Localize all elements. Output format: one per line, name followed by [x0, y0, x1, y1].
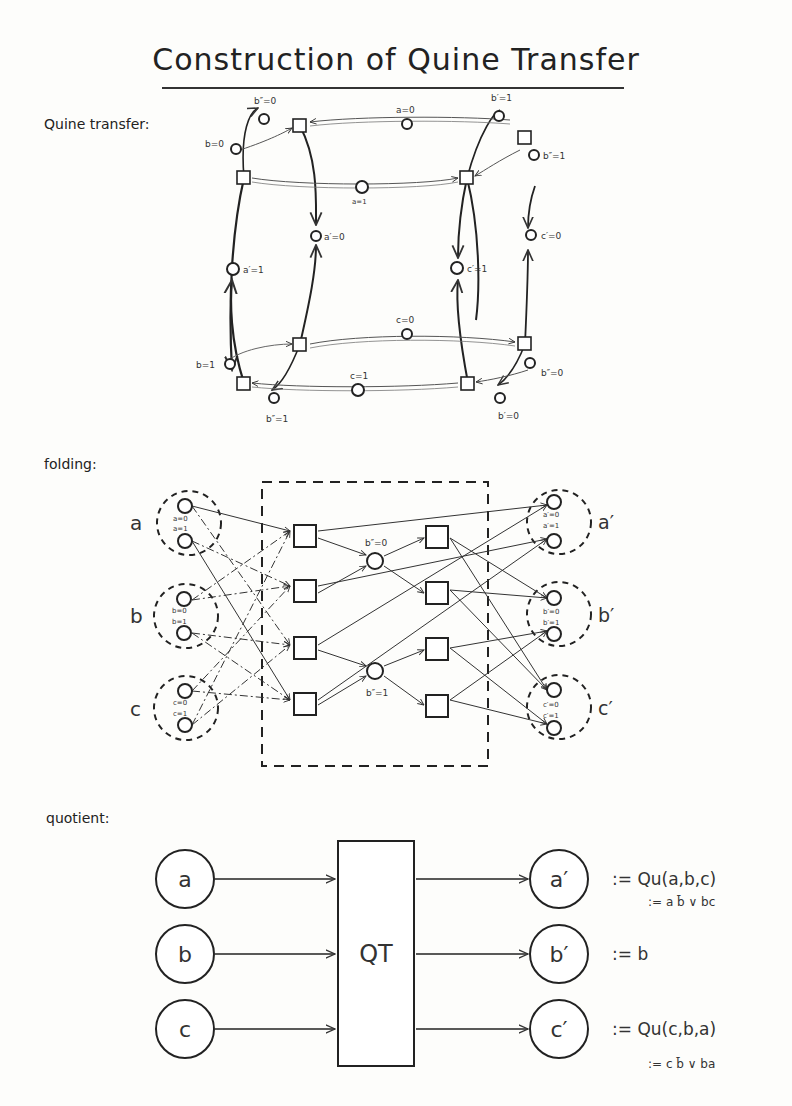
equation-a-prime: := Qu(a,b,c) — [612, 869, 716, 889]
place-b-pp-1 — [367, 663, 383, 679]
output-label-b-prime: b′ — [550, 942, 569, 967]
label: a′=1 — [243, 265, 264, 275]
equation-c-prime: := Qu(c,b,a) — [612, 1019, 716, 1039]
label: a=1 — [173, 525, 188, 533]
label: a=0 — [173, 515, 188, 523]
place-b-1 — [177, 626, 191, 640]
input-label-b: b — [178, 942, 192, 967]
group-label-a: a — [130, 511, 142, 535]
quine-transfer-net — [226, 108, 535, 391]
place-a-0 — [402, 119, 412, 129]
transition — [461, 377, 474, 390]
transition — [518, 337, 531, 350]
place-b-1 — [225, 359, 235, 369]
place-c-p-1 — [451, 262, 463, 274]
label: b=0 — [205, 139, 224, 149]
transition — [294, 693, 316, 715]
quine-transfer-places — [225, 111, 539, 403]
equation-a-prime-expanded: := a b̄ ∨ bc — [648, 895, 715, 909]
place-b-pp-1-top — [529, 150, 539, 160]
place-a-p-0 — [311, 231, 321, 241]
label: a′=0 — [324, 232, 345, 242]
transition — [294, 637, 316, 659]
equation-c-prime-expanded: := c b̄ ∨ ba — [648, 1057, 715, 1071]
transition — [518, 131, 531, 144]
label: b′=1 — [543, 619, 559, 627]
label: c′=1 — [467, 264, 487, 274]
quine-transfer-labels: b″=0 b=0 a=0 b′=1 b″=1 a=1 a′=0 a′=1 c′=… — [196, 93, 565, 424]
place-c-0 — [402, 329, 412, 339]
label: b″=0 — [541, 368, 564, 378]
place-a-0 — [178, 499, 192, 513]
transition — [426, 582, 448, 604]
label: b=0 — [172, 607, 187, 615]
place-b-pp-0 — [367, 553, 383, 569]
group-label-a-prime: a′ — [598, 511, 614, 533]
transition — [293, 338, 306, 351]
folding-net: a b c a=0 a=1 b=0 b=1 c=0 c=1 b″=0 b″=1 … — [130, 482, 614, 766]
label: b″=1 — [266, 414, 288, 424]
place-b-p-0 — [495, 393, 505, 403]
label: c=0 — [396, 315, 414, 325]
input-label-c: c — [179, 1017, 191, 1042]
label: b=1 — [196, 360, 215, 370]
label: b′=0 — [498, 411, 519, 421]
group-label-b: b — [130, 604, 143, 628]
transition — [426, 526, 448, 548]
place-c-p-0 — [526, 230, 536, 240]
qt-label: QT — [359, 940, 393, 968]
output-label-c-prime: c′ — [550, 1017, 567, 1042]
label: b′=1 — [491, 93, 512, 103]
group-label-b-prime: b′ — [598, 604, 614, 626]
place-b-pp-0 — [259, 114, 269, 124]
label: b′=0 — [543, 608, 559, 616]
place-a-1 — [178, 534, 192, 548]
quotient-net: a b c QT a′ b′ c′ := Qu(a,b,c) := a b̄ ∨… — [156, 841, 716, 1071]
label: a′=0 — [543, 511, 559, 519]
place-b-0 — [177, 592, 191, 606]
label: c=1 — [173, 710, 187, 718]
group-label-c: c — [130, 697, 141, 721]
label: c=1 — [350, 371, 368, 381]
label: a=0 — [396, 105, 415, 115]
place-b-p-1 — [494, 111, 504, 121]
place-b-p-1 — [547, 627, 561, 641]
label: c′=0 — [541, 231, 562, 241]
place-b-pp-1 — [269, 393, 279, 403]
quine-transfer-transitions — [237, 119, 531, 390]
place-c-p-0 — [547, 683, 561, 697]
place-c-1 — [178, 718, 192, 732]
label: b″=1 — [543, 151, 565, 161]
label: a′=1 — [543, 522, 559, 530]
input-label-a: a — [178, 867, 191, 892]
transition — [460, 171, 473, 184]
label: b=1 — [172, 618, 187, 626]
place-b-0 — [231, 144, 241, 154]
label: c′=0 — [543, 701, 559, 709]
transition — [293, 119, 306, 132]
transition — [294, 525, 316, 547]
place-b-pp-0 — [525, 358, 535, 368]
label: b″=1 — [366, 688, 388, 698]
place-a-p-1 — [547, 534, 561, 548]
group-label-c-prime: c′ — [598, 697, 613, 719]
place-c-p-1 — [547, 721, 561, 735]
place-c-0 — [178, 684, 192, 698]
transition — [426, 695, 448, 717]
label: b″=0 — [365, 538, 388, 548]
label: a=1 — [352, 198, 367, 206]
transition — [426, 638, 448, 660]
label: c=0 — [173, 699, 187, 707]
place-b-p-0 — [547, 591, 561, 605]
label: b″=0 — [254, 96, 277, 106]
label: c′=1 — [543, 712, 559, 720]
place-a-p-0 — [547, 495, 561, 509]
transition — [237, 171, 250, 184]
output-label-a-prime: a′ — [550, 867, 568, 892]
transition — [294, 580, 316, 602]
diagram-canvas: b″=0 b=0 a=0 b′=1 b″=1 a=1 a′=0 a′=1 c′=… — [0, 0, 792, 1106]
equation-b-prime: := b — [612, 944, 648, 964]
transition — [237, 377, 250, 390]
place-a-1 — [356, 181, 368, 193]
place-c-1 — [352, 384, 364, 396]
